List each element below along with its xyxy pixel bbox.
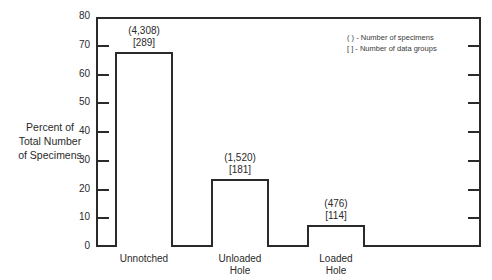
x-tick-label-line: Hole xyxy=(200,265,280,277)
y-tick-right xyxy=(468,131,479,133)
y-tick-right xyxy=(468,189,479,191)
y-tick-right xyxy=(468,217,479,219)
y-tick-right xyxy=(468,160,479,162)
y-tick-left xyxy=(98,160,109,162)
x-tick-label-line: Unloaded xyxy=(200,253,280,265)
bar-loaded-hole xyxy=(307,225,365,247)
x-tick-label: Unnotched xyxy=(104,253,184,265)
legend: ( ) - Number of specimens [ ] - Number o… xyxy=(347,32,437,54)
bar-unloaded-hole xyxy=(211,179,269,247)
y-tick-left xyxy=(98,189,109,191)
y-tick-label: 50 xyxy=(70,97,90,107)
bar-annotation: (1,520)[181] xyxy=(200,152,280,176)
y-tick-label: 40 xyxy=(70,126,90,136)
x-tick-label-line: Unnotched xyxy=(104,253,184,265)
specimen-count: (476) xyxy=(296,198,376,210)
y-tick-right xyxy=(468,74,479,76)
data-group-count: [181] xyxy=(200,164,280,176)
y-tick-label: 60 xyxy=(70,69,90,79)
bar-annotation: (476)[114] xyxy=(296,198,376,222)
legend-item-data-groups: [ ] - Number of data groups xyxy=(347,43,437,54)
x-tick-label-line: Hole xyxy=(296,265,376,277)
x-tick-label: LoadedHole xyxy=(296,253,376,277)
x-tick-label: UnloadedHole xyxy=(200,253,280,277)
y-tick-label: 70 xyxy=(70,40,90,50)
bar-annotation: (4,308)[289] xyxy=(104,25,184,49)
y-tick-label: 20 xyxy=(70,184,90,194)
y-tick-left xyxy=(98,131,109,133)
specimen-count: (1,520) xyxy=(200,152,280,164)
y-tick-label: 80 xyxy=(70,11,90,21)
y-tick-label: 10 xyxy=(70,212,90,222)
y-axis-title-line: Total Number xyxy=(6,134,94,148)
y-tick-right xyxy=(468,102,479,104)
data-group-count: [114] xyxy=(296,210,376,222)
data-group-count: [289] xyxy=(104,37,184,49)
y-tick-label: 30 xyxy=(70,155,90,165)
y-tick-label: 0 xyxy=(70,241,90,251)
y-tick-left xyxy=(98,74,109,76)
legend-item-specimens: ( ) - Number of specimens xyxy=(347,32,437,43)
y-tick-right xyxy=(468,45,479,47)
bar-unnotched xyxy=(115,52,173,248)
specimen-count: (4,308) xyxy=(104,25,184,37)
y-tick-left xyxy=(98,102,109,104)
y-tick-left xyxy=(98,217,109,219)
x-tick-label-line: Loaded xyxy=(296,253,376,265)
